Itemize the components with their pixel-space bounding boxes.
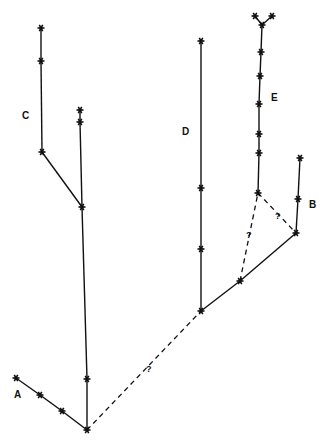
solid-edge — [259, 76, 260, 104]
solid-edge — [41, 61, 42, 152]
solid-edge — [82, 207, 87, 379]
label-e: E — [271, 92, 278, 103]
label-c: C — [22, 110, 29, 121]
lineage-diagram: A B C D E ? ? ? — [0, 0, 324, 443]
branch-labels: A B C D E ? ? ? — [14, 92, 316, 400]
solid-edge — [42, 152, 82, 207]
solid-edge — [201, 281, 240, 311]
solid-edge — [298, 158, 300, 199]
solid-edge — [261, 25, 262, 52]
solid-edge — [260, 52, 261, 76]
label-a: A — [14, 389, 21, 400]
dashed-edge — [87, 311, 201, 430]
solid-edge — [62, 411, 87, 430]
node-markers — [13, 13, 304, 433]
edges — [16, 16, 300, 430]
solid-edge — [258, 153, 259, 193]
uncertain-marker: ? — [246, 230, 252, 240]
diagram-svg: A B C D E ? ? ? — [0, 0, 324, 443]
label-d: D — [182, 126, 189, 137]
uncertain-marker: ? — [146, 364, 152, 374]
solid-edge — [240, 233, 296, 281]
solid-edge — [296, 199, 298, 233]
uncertain-marker: ? — [275, 211, 281, 221]
solid-edge — [40, 395, 62, 411]
solid-edge — [80, 122, 82, 207]
label-b: B — [309, 199, 316, 210]
